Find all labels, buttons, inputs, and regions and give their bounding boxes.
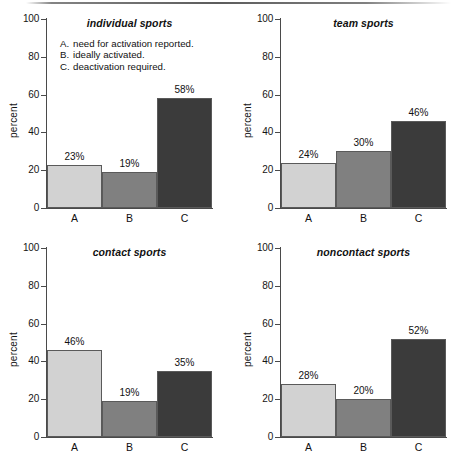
plot-area: 46%19%35% (47, 248, 212, 437)
bar-value-label: 20% (336, 386, 391, 396)
bar-value-label: 19% (102, 388, 157, 398)
bar-c[interactable] (391, 339, 446, 437)
y-axis-tick (41, 437, 47, 438)
x-axis-tick-label-b: B (336, 212, 391, 224)
x-axis-line (46, 208, 213, 209)
y-axis-title-anchor: percent (238, 19, 256, 208)
bar-c[interactable] (157, 98, 212, 208)
chart-panel-1: 020406080100percentteam sports24%30%46%A… (234, 0, 467, 229)
bar-value-label: 24% (281, 150, 336, 160)
y-axis-tick (41, 208, 47, 209)
y-axis-title: percent (242, 310, 253, 390)
bar-a[interactable] (47, 165, 102, 208)
x-axis-tick-label-b: B (102, 212, 157, 224)
y-axis-title: percent (8, 81, 19, 161)
plot-area: 24%30%46% (281, 19, 446, 208)
bar-c[interactable] (157, 371, 212, 437)
chart-panel-0: 020406080100percentindividual sportsA.ne… (0, 0, 233, 229)
x-axis-tick-label-c: C (391, 212, 446, 224)
y-axis-title-anchor: percent (4, 248, 22, 437)
y-axis-title-anchor: percent (4, 19, 22, 208)
chart-panel-3: 020406080100percentnoncontact sports28%2… (234, 229, 467, 458)
bar-value-label: 58% (157, 85, 212, 95)
x-axis-line (46, 437, 213, 438)
bar-a[interactable] (47, 350, 102, 437)
bar-value-label: 23% (47, 152, 102, 162)
x-axis-tick-label-a: A (47, 212, 102, 224)
y-axis-title: percent (8, 310, 19, 390)
plot-area: 23%19%58% (47, 19, 212, 208)
x-axis-tick-label-b: B (102, 441, 157, 453)
bar-a[interactable] (281, 384, 336, 437)
x-axis-tick-label-b: B (336, 441, 391, 453)
x-axis-tick-label-a: A (47, 441, 102, 453)
x-axis-tick-label-c: C (391, 441, 446, 453)
plot-area: 28%20%52% (281, 248, 446, 437)
bar-b[interactable] (102, 172, 157, 208)
x-axis-tick-label-a: A (281, 212, 336, 224)
y-axis-title-anchor: percent (238, 248, 256, 437)
bar-value-label: 35% (157, 358, 212, 368)
bar-b[interactable] (336, 151, 391, 208)
x-axis-tick-label-a: A (281, 441, 336, 453)
y-axis-tick (275, 437, 281, 438)
y-axis-title: percent (242, 81, 253, 161)
x-axis-line (280, 208, 447, 209)
bar-value-label: 28% (281, 371, 336, 381)
bar-c[interactable] (391, 121, 446, 208)
x-axis-tick-label-c: C (157, 212, 212, 224)
bar-value-label: 19% (102, 159, 157, 169)
bar-b[interactable] (102, 401, 157, 437)
bar-a[interactable] (281, 163, 336, 208)
bar-value-label: 30% (336, 138, 391, 148)
bar-value-label: 46% (391, 108, 446, 118)
multi-panel-bar-chart-figure: 020406080100percentindividual sportsA.ne… (0, 0, 467, 459)
x-axis-tick-label-c: C (157, 441, 212, 453)
chart-panel-2: 020406080100percentcontact sports46%19%3… (0, 229, 233, 458)
y-axis-tick (275, 208, 281, 209)
x-axis-line (280, 437, 447, 438)
bar-b[interactable] (336, 399, 391, 437)
bar-value-label: 52% (391, 326, 446, 336)
bar-value-label: 46% (47, 337, 102, 347)
